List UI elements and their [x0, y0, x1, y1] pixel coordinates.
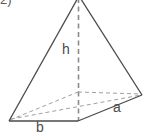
base-edge-front-right	[78, 95, 142, 121]
visible-edges-group	[9, 0, 142, 121]
item-number-marker: 2)	[0, 0, 12, 6]
pyramid-svg	[0, 0, 149, 140]
hidden-edge-left-to-back	[10, 92, 78, 120]
hidden-diagonal-left-to-right	[11, 95, 141, 119]
hidden-edges-group	[10, 92, 141, 120]
hidden-edge-back-to-right	[78, 92, 141, 94]
height-label: h	[62, 42, 70, 56]
base-edge-a-label: a	[113, 100, 121, 114]
edge-apex-to-left	[9, 0, 79, 121]
base-edge-b-label: b	[36, 120, 44, 134]
edge-apex-to-right	[79, 0, 142, 95]
pyramid-diagram: 2) h a b	[0, 0, 149, 140]
